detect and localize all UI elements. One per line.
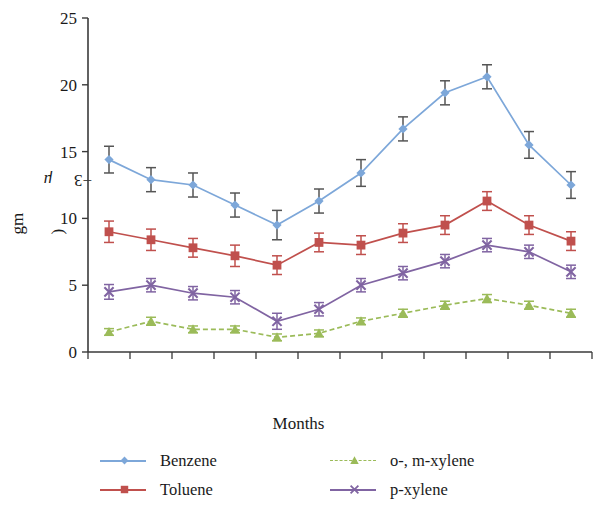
y-tick-label-15: 15 xyxy=(60,143,77,162)
y-tick-label-10: 10 xyxy=(60,209,77,228)
series-line xyxy=(109,299,571,338)
legend-marker-x-icon xyxy=(330,483,376,497)
data-point xyxy=(399,229,408,238)
data-point xyxy=(146,175,155,184)
legend-item-benzene[interactable]: Benzene xyxy=(100,448,217,474)
legend-symbol xyxy=(349,454,360,467)
legend-label: o-, m-xylene xyxy=(390,451,474,471)
data-point xyxy=(567,237,576,246)
data-point xyxy=(105,227,114,236)
legend-item-p-xylene[interactable]: p-xylene xyxy=(330,477,448,503)
series-line xyxy=(109,245,571,321)
data-point xyxy=(272,220,281,229)
data-point xyxy=(525,221,534,230)
series-line xyxy=(109,201,571,265)
legend-item-o---m-xylene[interactable]: o-, m-xylene xyxy=(330,448,474,474)
y-tick-label-20: 20 xyxy=(60,76,77,95)
series-line xyxy=(109,77,571,225)
data-point xyxy=(357,241,366,250)
data-point xyxy=(483,197,492,206)
y-tick-label-0: 0 xyxy=(69,343,78,360)
legend-symbol xyxy=(349,483,360,496)
legend-symbol xyxy=(119,483,130,496)
legend-marker-square-icon xyxy=(100,483,146,497)
data-point xyxy=(231,251,240,260)
data-point xyxy=(230,200,239,209)
legend-item-toluene[interactable]: Toluene xyxy=(100,477,213,503)
legend-label: p-xylene xyxy=(390,480,448,500)
data-point xyxy=(482,72,491,81)
series-toluene xyxy=(104,192,576,275)
x-axis-label: Months xyxy=(0,414,597,434)
series-o---m-xylene xyxy=(104,294,576,342)
chart-legend: Benzeneo-, m-xyleneToluenep-xylene xyxy=(0,448,597,509)
data-point xyxy=(441,221,450,230)
plot-area: 0510152025AprMayJunJulAugSeptOctNovDecJa… xyxy=(40,0,597,360)
legend-label: Toluene xyxy=(160,480,213,500)
data-point xyxy=(314,196,323,205)
legend-marker-triangle-icon xyxy=(330,454,376,468)
series-p-xylene xyxy=(104,238,576,329)
series-benzene xyxy=(104,65,576,240)
chart-figure: Concentration (μgm−3) 0510152025AprMayJu… xyxy=(0,0,597,509)
data-point xyxy=(315,238,324,247)
y-axis-label: Concentration (μgm−3) xyxy=(0,0,38,360)
y-tick-label-5: 5 xyxy=(69,276,78,295)
data-point xyxy=(273,261,282,270)
x-axis-label-text: Months xyxy=(273,414,325,433)
legend-symbol xyxy=(119,454,130,467)
legend-marker-diamond-icon xyxy=(100,454,146,468)
data-point xyxy=(188,180,197,189)
y-tick-label-25: 25 xyxy=(60,9,77,28)
data-point xyxy=(147,235,156,244)
data-point xyxy=(189,243,198,252)
legend-label: Benzene xyxy=(160,451,217,471)
line-chart-svg: 0510152025AprMayJunJulAugSeptOctNovDecJa… xyxy=(40,0,597,360)
data-point xyxy=(104,155,113,164)
